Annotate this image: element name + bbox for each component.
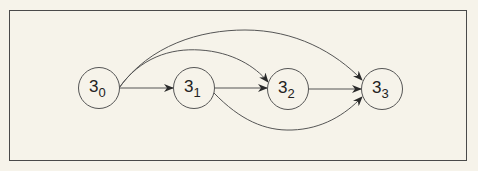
node-s3: 33 [362, 69, 403, 110]
state-graph: 30 31 32 33 [0, 0, 478, 171]
node-s1: 31 [174, 68, 215, 109]
node-s0: 30 [79, 68, 120, 109]
node-s2: 32 [268, 69, 309, 110]
edge-s0-s3 [119, 30, 362, 88]
